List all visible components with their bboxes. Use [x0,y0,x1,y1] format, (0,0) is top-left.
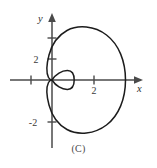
panel-caption: (C) [0,143,157,154]
x-axis-label: x [136,83,142,94]
y-tick-label-minus-2: -2 [29,117,37,128]
x-tick-label-2: 2 [92,85,97,96]
y-axis-label: y [37,13,43,24]
y-tick-label-2: 2 [34,54,39,65]
y-axis-arrow-icon [48,13,56,22]
figure-panel: y x 2 -2 2 (C) [0,0,157,168]
